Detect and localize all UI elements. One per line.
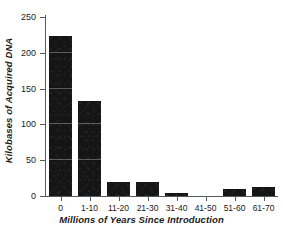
- y-axis-tick: [40, 124, 45, 125]
- x-axis-title: Millions of Years Since Introduction: [0, 214, 283, 225]
- bar: [136, 182, 159, 196]
- bar-band-artifact: [78, 123, 101, 124]
- x-axis-tick: [206, 197, 207, 201]
- bar-band-artifact: [49, 159, 72, 160]
- x-axis-tick: [119, 197, 120, 201]
- plot-area: [46, 17, 278, 196]
- x-axis-tick: [90, 197, 91, 201]
- x-axis-tick-label: 1-10: [81, 203, 98, 213]
- x-axis-tick-label: 11-20: [108, 203, 129, 213]
- y-axis-tick: [40, 53, 45, 54]
- bar-band-artifact: [49, 123, 72, 124]
- y-axis-title: Kilobases of Acquired DNA: [0, 0, 18, 200]
- bar-band-artifact: [78, 159, 101, 160]
- y-axis-tick-label: 150: [21, 84, 36, 94]
- y-axis-tick: [40, 160, 45, 161]
- y-axis-tick: [40, 196, 45, 197]
- bar-band-artifact: [49, 52, 72, 53]
- y-axis-tick-label: 0: [31, 191, 36, 201]
- y-axis-tick-label: 250: [21, 12, 36, 22]
- bar-chart-figure: Kilobases of Acquired DNA 05010015020025…: [0, 0, 283, 233]
- x-axis-tick: [148, 197, 149, 201]
- bar: [49, 36, 72, 196]
- y-axis-tick-label: 50: [26, 155, 36, 165]
- x-axis-tick-label: 0: [58, 203, 63, 213]
- x-axis-tick-label: 31-40: [166, 203, 188, 213]
- x-axis-tick: [61, 197, 62, 201]
- bar: [252, 187, 275, 196]
- x-axis-tick-label: 51-60: [224, 203, 246, 213]
- x-axis-tick: [264, 197, 265, 201]
- bar: [107, 182, 130, 196]
- y-axis-title-text: Kilobases of Acquired DNA: [4, 37, 15, 163]
- y-axis-tick-label: 100: [21, 119, 36, 129]
- bar: [78, 101, 101, 196]
- bar: [223, 189, 246, 196]
- x-axis-tick: [235, 197, 236, 201]
- x-axis-tick-label: 41-50: [195, 203, 217, 213]
- x-axis-line: [45, 196, 278, 197]
- x-axis-tick: [177, 197, 178, 201]
- x-axis-tick-label: 21-30: [137, 203, 159, 213]
- bar: [165, 193, 188, 196]
- y-axis-tick: [40, 89, 45, 90]
- x-axis-tick-label: 61-70: [253, 203, 275, 213]
- y-axis-tick-label: 200: [21, 48, 36, 58]
- y-axis-tick: [40, 17, 45, 18]
- bar-band-artifact: [49, 88, 72, 89]
